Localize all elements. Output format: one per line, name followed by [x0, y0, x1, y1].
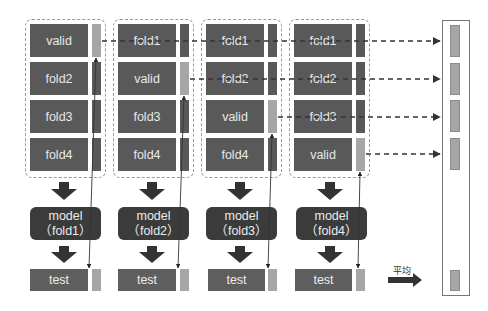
average-arrow-icon — [388, 273, 422, 287]
link-arrow-icon — [89, 58, 360, 268]
dashed-arrow-icon — [102, 41, 440, 154]
down-arrow-icon — [51, 182, 343, 263]
connector-overlay — [0, 0, 488, 311]
